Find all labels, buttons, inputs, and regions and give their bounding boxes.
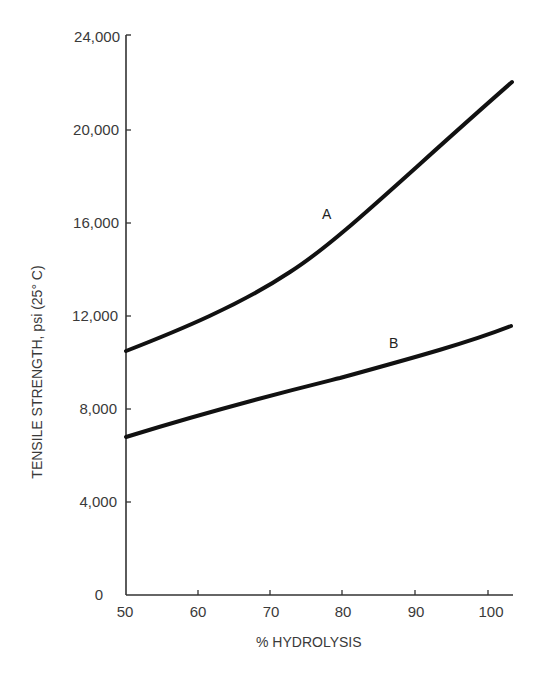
y-tick-label: 16,000: [73, 214, 119, 231]
curve-a-label: A: [322, 206, 332, 222]
x-tick-label: 100: [478, 603, 503, 620]
axes: [126, 35, 513, 595]
y-tick-label: 0: [95, 586, 103, 603]
tensile-strength-chart: 0 4,000 8,000 12,000 16,000 20,000 24,00…: [0, 0, 536, 679]
y-tick-labels: 0 4,000 8,000 12,000 16,000 20,000 24,00…: [72, 28, 120, 603]
y-tick-label: 4,000: [79, 493, 117, 510]
y-tick-label: 8,000: [79, 400, 117, 417]
x-tick-label: 60: [190, 603, 207, 620]
y-tick-label: 12,000: [72, 307, 118, 324]
x-tick-labels: 50 60 70 80 90 100: [117, 603, 504, 620]
curve-b: [126, 326, 511, 437]
x-tick-label: 70: [263, 603, 280, 620]
x-tick-label: 90: [408, 603, 425, 620]
x-tick-label: 50: [117, 603, 134, 620]
curve-a: [126, 82, 512, 351]
x-axis-title: % HYDROLYSIS: [256, 634, 362, 650]
y-tick-label: 24,000: [74, 28, 120, 45]
y-axis-title: TENSILE STRENGTH, psi (25° C): [29, 265, 45, 478]
x-tick-label: 80: [335, 603, 352, 620]
curve-b-label: B: [389, 335, 398, 351]
y-tick-label: 20,000: [73, 121, 119, 138]
